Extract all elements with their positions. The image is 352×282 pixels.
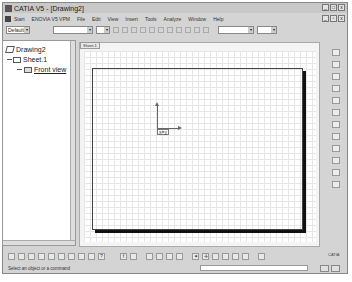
annotation-icon[interactable] — [332, 169, 340, 176]
close-button[interactable]: x — [338, 4, 345, 11]
subscript-button[interactable] — [167, 27, 173, 33]
zoom-in-icon[interactable] — [212, 253, 219, 260]
dimension-combo[interactable]: ▾ — [218, 26, 254, 34]
frame-button[interactable] — [203, 27, 209, 33]
menu-bar: Start ENOVIA V5 VPM File Edit View Inser… — [3, 14, 347, 23]
x-axis-arrow-icon — [178, 126, 182, 130]
view-tool-icon[interactable] — [332, 61, 340, 68]
superscript-button[interactable] — [158, 27, 164, 33]
bold-button[interactable] — [113, 27, 119, 33]
sheet-frame — [92, 68, 303, 230]
menu-tools[interactable]: Tools — [145, 16, 157, 22]
menu-edit[interactable]: Edit — [92, 16, 101, 22]
menu-help[interactable]: Help — [213, 16, 223, 22]
tolerance-combo[interactable]: ▾ — [257, 26, 277, 34]
text-properties-toolbar: Default ▾ ▾ ▾ ▾ ▾ — [3, 24, 347, 36]
window-title: CATIA V5 - [Drawing2] — [14, 5, 84, 12]
open-file-icon[interactable] — [18, 253, 25, 260]
dress-up-icon[interactable] — [332, 181, 340, 188]
section-view-icon[interactable] — [332, 97, 340, 104]
chevron-down-icon[interactable]: ▾ — [87, 27, 92, 33]
menu-file[interactable]: File — [77, 16, 85, 22]
cut-icon[interactable] — [48, 253, 55, 260]
projection-view-icon[interactable] — [332, 85, 340, 92]
doc-close-button[interactable]: x — [338, 15, 345, 22]
swap-icon[interactable] — [176, 253, 183, 260]
hide-show-icon[interactable] — [258, 253, 265, 260]
y-axis-line — [157, 104, 158, 129]
copy-icon[interactable] — [58, 253, 65, 260]
chevron-down-icon[interactable]: ▾ — [24, 27, 29, 33]
align-left-button[interactable] — [176, 27, 182, 33]
style-combo[interactable]: Default ▾ — [6, 26, 30, 34]
whats-this-icon[interactable]: ? — [98, 253, 105, 260]
y-axis-arrow-icon — [155, 102, 159, 106]
new-file-icon[interactable] — [8, 253, 15, 260]
redo-icon[interactable] — [88, 253, 95, 260]
underline-button[interactable] — [131, 27, 137, 33]
sheet-tab[interactable]: Sheet.1 — [80, 42, 100, 49]
tree-root-label: Drawing2 — [16, 46, 46, 53]
status-button-1[interactable] — [320, 265, 329, 272]
right-toolbar — [326, 45, 346, 250]
dimension-icon[interactable] — [332, 157, 340, 164]
broken-view-icon[interactable] — [332, 133, 340, 140]
paste-icon[interactable] — [68, 253, 75, 260]
thickness-icon[interactable] — [166, 253, 173, 260]
menu-insert[interactable]: Insert — [125, 16, 138, 22]
formula-icon[interactable]: f — [120, 253, 127, 260]
menu-view[interactable]: View — [108, 16, 119, 22]
doc-restore-button[interactable]: ▫ — [330, 15, 337, 22]
menu-start[interactable]: Start — [14, 16, 25, 22]
align-right-button[interactable] — [194, 27, 200, 33]
font-combo[interactable]: ▾ — [53, 26, 93, 34]
chevron-down-icon[interactable]: ▾ — [248, 27, 253, 33]
undo-icon[interactable] — [78, 253, 85, 260]
document-icon[interactable] — [5, 16, 11, 22]
align-center-button[interactable] — [185, 27, 191, 33]
specification-tree: Drawing2 Sheet.1 Front view — [2, 40, 76, 246]
detail-view-icon[interactable] — [332, 109, 340, 116]
command-input[interactable] — [200, 265, 308, 271]
menu-analyze[interactable]: Analyze — [164, 16, 182, 22]
catia-app-icon — [5, 5, 12, 12]
status-message: Select an object or a command — [8, 266, 70, 271]
tree-vertical-scrollbar[interactable] — [70, 41, 75, 245]
tree-item-sheet[interactable]: Sheet.1 — [7, 56, 47, 63]
multi-view-icon[interactable] — [242, 253, 249, 260]
chevron-down-icon[interactable]: ▾ — [104, 27, 109, 33]
tree-horizontal-scrollbar[interactable] — [3, 240, 75, 245]
tree-item-front-view[interactable]: Front view — [17, 66, 66, 73]
print-icon[interactable] — [38, 253, 45, 260]
fit-all-icon[interactable]: ✦ — [192, 253, 199, 260]
strikethrough-button[interactable] — [140, 27, 146, 33]
title-bar: CATIA V5 - [Drawing2] _ □ x — [3, 3, 347, 13]
view-icon — [24, 67, 32, 73]
zoom-out-icon[interactable] — [222, 253, 229, 260]
clipping-view-icon[interactable] — [332, 121, 340, 128]
minimize-button[interactable]: _ — [322, 4, 329, 11]
line-type-icon[interactable] — [156, 253, 163, 260]
wizard-icon[interactable] — [332, 145, 340, 152]
maximize-button[interactable]: □ — [330, 4, 337, 11]
view-origin-label[interactable]: x=y — [157, 129, 169, 135]
catia-logo: CATIA — [328, 252, 339, 257]
tree-item-drawing[interactable]: Drawing2 — [6, 46, 46, 53]
front-view-icon[interactable] — [332, 73, 340, 80]
menu-window[interactable]: Window — [188, 16, 206, 22]
font-size-combo[interactable]: ▾ — [96, 26, 110, 34]
tree-view-label: Front view — [34, 66, 66, 73]
catalog-icon[interactable] — [130, 253, 137, 260]
save-icon[interactable] — [28, 253, 35, 260]
chevron-down-icon[interactable]: ▾ — [271, 27, 276, 33]
menu-enovia[interactable]: ENOVIA V5 VPM — [32, 16, 70, 22]
overline-button[interactable] — [149, 27, 155, 33]
fill-icon[interactable] — [146, 253, 153, 260]
doc-minimize-button[interactable]: _ — [322, 15, 329, 22]
italic-button[interactable] — [122, 27, 128, 33]
normal-view-icon[interactable] — [232, 253, 239, 260]
status-button-2[interactable] — [331, 265, 340, 272]
tree-connector-icon — [17, 69, 22, 70]
pan-icon[interactable]: ✛ — [202, 253, 209, 260]
sheet-tool-icon[interactable] — [332, 49, 340, 56]
